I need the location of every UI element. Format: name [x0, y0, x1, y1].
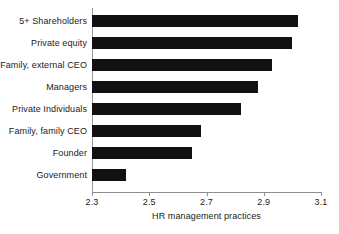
category-label: Managers: [46, 82, 87, 92]
x-axis-tick: [92, 192, 93, 196]
bar-government: [92, 169, 126, 181]
plot-area: 5+ Shareholders Private equity Family, e…: [92, 8, 321, 192]
x-axis-tick-label: 2.7: [200, 197, 213, 207]
bar-private-individuals: [92, 103, 241, 115]
x-axis-tick-label: 2.5: [143, 197, 156, 207]
category-label: Family, external CEO: [0, 60, 87, 70]
category-label: Government: [36, 170, 87, 180]
bar-private-equity: [92, 37, 292, 49]
x-axis-tick-label: 3.1: [314, 197, 327, 207]
hr-management-practices-bar-chart: 5+ Shareholders Private equity Family, e…: [0, 0, 339, 234]
category-label: Private equity: [31, 38, 87, 48]
x-axis-title: HR management practices: [92, 211, 321, 221]
x-axis-tick: [321, 192, 322, 196]
x-axis-tick-label: 2.3: [85, 197, 98, 207]
bar-managers: [92, 81, 258, 93]
x-axis-tick-label: 2.9: [257, 197, 270, 207]
category-label: Founder: [53, 148, 87, 158]
bar-family-external-ceo: [92, 59, 272, 71]
category-label: 5+ Shareholders: [19, 16, 87, 26]
x-axis-tick: [149, 192, 150, 196]
category-label: Private Individuals: [12, 104, 87, 114]
bar-5-shareholders: [92, 15, 298, 27]
category-label: Family, family CEO: [9, 126, 87, 136]
bar-family-family-ceo: [92, 125, 201, 137]
x-axis-tick: [207, 192, 208, 196]
x-axis-tick: [264, 192, 265, 196]
bar-founder: [92, 147, 192, 159]
